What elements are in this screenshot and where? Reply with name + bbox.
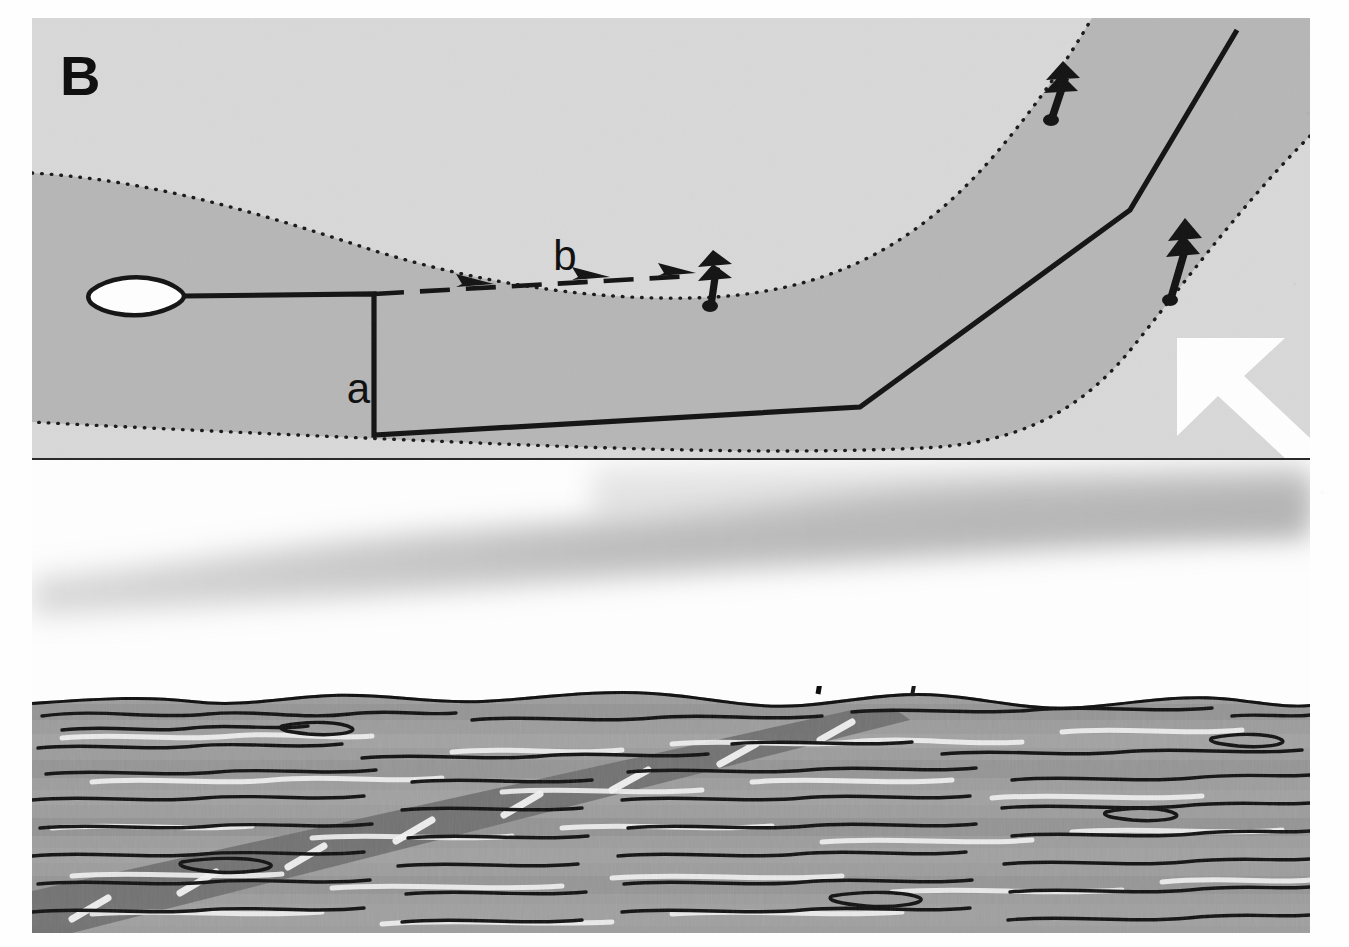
map-diagram-panel: a b — [32, 18, 1310, 460]
map-svg: a b — [32, 18, 1310, 460]
figure-root: a b — [0, 0, 1349, 947]
map-grain-overlay — [32, 18, 1310, 460]
sky-svg — [32, 460, 1310, 686]
sky-panel — [32, 460, 1310, 686]
water-photo-panel — [32, 686, 1310, 933]
water-body — [32, 686, 1310, 933]
panel-label: B — [60, 48, 100, 104]
water-grain-overlay — [32, 686, 1310, 933]
water-svg — [32, 686, 1310, 933]
distant-haze-soft — [592, 462, 1310, 528]
